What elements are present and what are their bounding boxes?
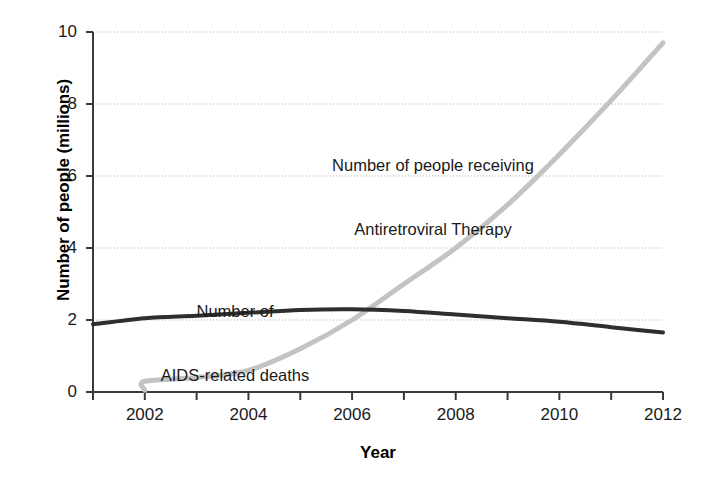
chart-figure: Number of people (millions) Year 0246810… [0, 0, 704, 478]
y-tick-label-4: 4 [37, 239, 77, 256]
y-tick-label-6: 6 [37, 167, 77, 184]
deaths-annotation-line1: Number of [130, 301, 340, 322]
deaths-annotation: Number of AIDS-related deaths [130, 258, 340, 430]
x-tick-label-2008: 2008 [416, 406, 496, 423]
y-axis-ticks [86, 32, 93, 392]
y-axis-title: Number of people (millions) [54, 30, 74, 350]
y-tick-label-0: 0 [37, 383, 77, 400]
art-annotation-line1: Number of people receiving [303, 155, 563, 176]
y-tick-label-10: 10 [37, 23, 77, 40]
x-axis-title: Year [93, 443, 663, 463]
deaths-annotation-line2: AIDS-related deaths [130, 365, 340, 386]
art-annotation: Number of people receiving Antiretrovira… [303, 112, 563, 284]
y-tick-label-2: 2 [37, 311, 77, 328]
x-tick-label-2012: 2012 [623, 406, 703, 423]
x-tick-label-2010: 2010 [519, 406, 599, 423]
art-annotation-line2: Antiretroviral Therapy [303, 219, 563, 240]
y-tick-label-8: 8 [37, 95, 77, 112]
